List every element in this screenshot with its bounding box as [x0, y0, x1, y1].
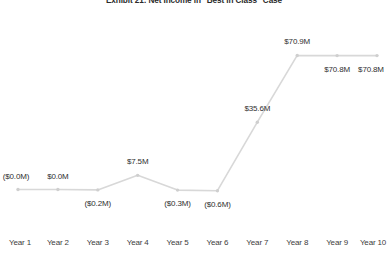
data-label: $35.6M	[244, 104, 270, 113]
data-point-marker	[56, 188, 59, 191]
data-label: ($0.6M)	[204, 200, 231, 209]
data-label: $70.8M	[324, 65, 350, 74]
data-label: ($0.2M)	[85, 199, 112, 208]
data-label: $70.8M	[358, 65, 384, 74]
x-axis-tick-label: Year 2	[47, 238, 69, 247]
data-point-marker	[96, 188, 99, 191]
data-label: $0.0M	[47, 172, 69, 181]
data-point-marker	[256, 121, 259, 124]
line-chart-plot	[0, 0, 388, 261]
x-axis-tick-label: Year 10	[360, 238, 386, 247]
data-label: ($0.0M)	[3, 172, 30, 181]
x-axis-tick-label: Year 4	[127, 238, 149, 247]
x-axis-tick-label: Year 1	[9, 238, 31, 247]
data-label: $7.5M	[127, 157, 149, 166]
data-point-marker	[296, 54, 299, 57]
x-axis-tick-label: Year 6	[206, 238, 228, 247]
data-point-marker	[176, 188, 179, 191]
x-axis-tick-label: Year 5	[167, 238, 189, 247]
x-axis-tick-label: Year 7	[246, 238, 268, 247]
x-axis-tick-label: Year 3	[87, 238, 109, 247]
data-label: $70.9M	[284, 37, 310, 46]
data-point-marker	[136, 174, 139, 177]
chart-container: Exhibit 21: Net Income in "Best in Class…	[0, 0, 388, 261]
x-axis-tick-label: Year 9	[326, 238, 348, 247]
data-point-marker	[375, 54, 378, 57]
data-label: ($0.3M)	[164, 199, 191, 208]
x-axis-tick-label: Year 8	[286, 238, 308, 247]
data-point-marker	[216, 189, 219, 192]
series-markers	[16, 54, 378, 193]
data-point-marker	[335, 54, 338, 57]
series-line	[18, 55, 377, 190]
data-point-marker	[16, 188, 19, 191]
